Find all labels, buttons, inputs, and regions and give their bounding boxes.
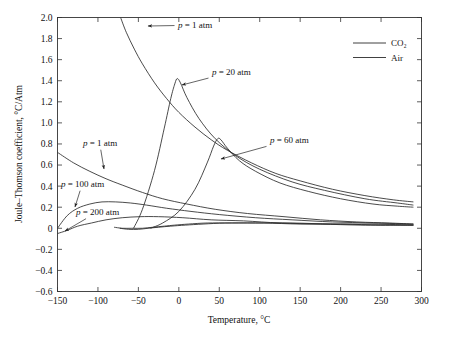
y-tick-label: 2.0 (41, 13, 53, 23)
x-tick-label: 0 (176, 296, 181, 306)
legend: CO₂Air (353, 38, 407, 63)
y-tick-label: 0.4 (41, 182, 53, 192)
y-axis-tickmarks (58, 18, 422, 292)
x-tick-label: 100 (253, 296, 268, 306)
y-tick-label: 0 (48, 224, 53, 234)
y-axis-title: Joule–Thomson coefficient, °C/Atm (14, 84, 24, 223)
x-axis-tickmarks (58, 18, 422, 292)
y-tick-label: 1.4 (41, 76, 53, 86)
y-tick-label: 0.8 (41, 139, 53, 149)
y-tick-label: −0.2 (35, 245, 52, 255)
x-tick-label: 50 (215, 296, 225, 306)
legend-label-2: Air (391, 53, 403, 63)
y-tick-label: −0.6 (35, 287, 52, 297)
y-tick-label: 0.6 (41, 160, 53, 170)
x-axis-tick-labels: −150−100−50050100150200250300 (48, 296, 429, 306)
curve-co2-p-1-atm (121, 18, 414, 202)
annotation-leader-air-1atm (101, 150, 104, 169)
x-tick-label: −150 (48, 296, 68, 306)
y-tick-label: 1.0 (41, 118, 53, 128)
y-axis-tick-labels: 2.01.81.61.41.21.00.80.60.40.20−0.2−0.4−… (35, 13, 52, 297)
y-tick-label: 1.6 (41, 55, 53, 65)
curve-annotations: p = 1 atmp = 20 atmp = 60 atmp = 1 atmp … (60, 20, 309, 231)
curve-co2-p-20-atm (134, 79, 414, 229)
x-axis-title: Temperature, °C (208, 315, 271, 325)
x-tick-label: −100 (88, 296, 108, 306)
y-tick-label: 1.8 (41, 34, 53, 44)
curve-air-p-200-atm (58, 217, 414, 234)
x-tick-label: −50 (131, 296, 146, 306)
chart-canvas: −150−100−50050100150200250300 2.01.81.61… (0, 0, 455, 342)
data-curves (58, 18, 414, 234)
annotation-label-co2-20atm: p = 20 atm (211, 67, 251, 77)
y-tick-label: −0.4 (35, 266, 52, 276)
annotation-label-air-200atm: p = 200 atm (75, 207, 119, 217)
annotation-leader-co2-20atm (182, 78, 209, 85)
y-tick-label: 0.2 (41, 203, 53, 213)
annotation-label-air-100atm: p = 100 atm (60, 179, 104, 189)
annotation-label-air-1atm: p = 1 atm (82, 138, 117, 148)
x-tick-label: 150 (293, 296, 308, 306)
x-tick-label: 200 (333, 296, 348, 306)
x-tick-label: 300 (414, 296, 429, 306)
annotation-label-co2-60atm: p = 60 atm (269, 135, 309, 145)
joule-thomson-coefficient-figure: −150−100−50050100150200250300 2.01.81.61… (0, 0, 455, 342)
annotation-leader-air-100atm (75, 191, 80, 207)
legend-label-1: CO₂ (391, 38, 407, 48)
curve-co2-p-60-atm (151, 138, 414, 228)
y-tick-label: 1.2 (41, 97, 53, 107)
plot-frame (58, 18, 422, 292)
x-tick-label: 250 (374, 296, 389, 306)
annotation-label-co2-1atm: p = 1 atm (177, 20, 212, 30)
